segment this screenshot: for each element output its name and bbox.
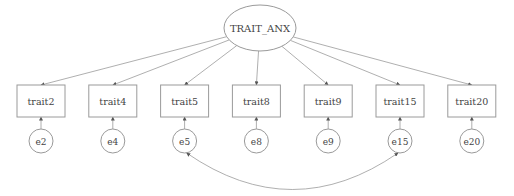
loading-arrow-trait9 (282, 46, 328, 85)
indicator-node-trait5: trait5 (161, 85, 209, 117)
loading-arrow-trait2 (41, 37, 227, 85)
error-node-e2: e2 (29, 129, 53, 153)
error-label: e2 (35, 137, 46, 147)
error-label: e9 (323, 137, 334, 147)
indicator-label: trait4 (99, 96, 126, 107)
error-node-e8: e8 (244, 129, 268, 153)
indicator-node-trait20: trait20 (448, 85, 496, 117)
error-label: e20 (463, 137, 480, 147)
loading-arrow-trait15 (290, 40, 400, 85)
indicator-label: trait20 (455, 96, 488, 107)
error-node-e15: e15 (388, 129, 412, 153)
sem-diagram: TRAIT_ANXtrait2e2trait4e4trait5e5trait8e… (0, 0, 514, 196)
indicator-node-trait9: trait9 (304, 85, 352, 117)
loading-arrow-trait5 (185, 46, 237, 85)
indicator-node-trait4: trait4 (89, 85, 137, 117)
error-label: e5 (179, 137, 190, 147)
indicator-node-trait15: trait15 (376, 85, 424, 117)
indicator-label: trait2 (28, 96, 55, 107)
indicator-node-trait2: trait2 (17, 85, 65, 117)
error-node-e4: e4 (101, 129, 125, 153)
error-node-e9: e9 (316, 129, 340, 153)
indicator-node-trait8: trait8 (232, 85, 280, 117)
error-label: e15 (392, 137, 409, 147)
error-node-e5: e5 (173, 129, 197, 153)
loading-arrow-trait8 (256, 51, 258, 85)
indicator-label: trait15 (384, 96, 417, 107)
latent-label: TRAIT_ANX (230, 23, 291, 35)
error-node-e20: e20 (460, 129, 484, 153)
latent-node-trait-anx: TRAIT_ANX (224, 5, 296, 51)
indicator-label: trait8 (243, 96, 270, 107)
indicator-label: trait9 (315, 96, 342, 107)
diagram-canvas: TRAIT_ANXtrait2e2trait4e4trait5e5trait8e… (0, 0, 514, 196)
indicator-label: trait5 (171, 96, 198, 107)
error-label: e8 (251, 137, 262, 147)
covariance-arrow-e5-e15 (187, 153, 398, 190)
error-label: e4 (107, 137, 118, 147)
loading-arrow-trait4 (113, 40, 229, 85)
